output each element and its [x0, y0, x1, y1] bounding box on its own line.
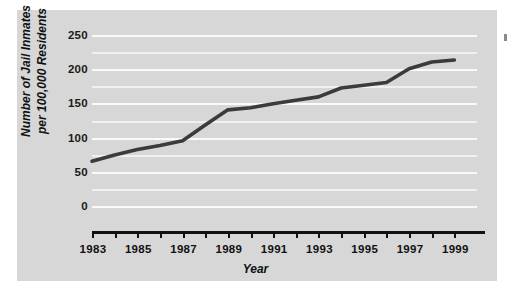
- x-tick-mark: [318, 231, 320, 238]
- data-series-line: [92, 36, 477, 207]
- x-axis-label: Year: [0, 262, 511, 276]
- x-tick-mark: [432, 231, 434, 238]
- plot-area: [92, 36, 477, 207]
- x-tick-mark: [183, 231, 185, 238]
- x-tick-label: 1985: [125, 243, 152, 255]
- x-tick-mark: [115, 231, 117, 238]
- y-axis-label-line2: per 100,000 Residents: [34, 8, 50, 134]
- y-axis-label-line1: Number of Jail Inmates: [18, 5, 34, 137]
- x-tick-label: 1997: [397, 243, 424, 255]
- chart-figure: 250200150100500 Number of Jail Inmates p…: [0, 0, 511, 292]
- y-tick-label: 50: [52, 167, 88, 179]
- x-tick-mark: [386, 231, 388, 238]
- y-tick-label: 0: [52, 201, 88, 213]
- x-tick-label: 1999: [442, 243, 469, 255]
- scan-artifact-mark: [504, 34, 507, 41]
- x-tick-mark: [137, 231, 139, 238]
- x-tick-mark: [251, 231, 253, 238]
- x-tick-label: 1987: [170, 243, 197, 255]
- x-tick-mark: [160, 231, 162, 238]
- x-tick-mark: [364, 231, 366, 238]
- x-tick-label: 1991: [261, 243, 288, 255]
- x-tick-mark: [296, 231, 298, 238]
- y-axis-label: Number of Jail Inmates per 100,000 Resid…: [17, 0, 51, 166]
- x-tick-mark: [341, 231, 343, 238]
- x-tick-mark: [205, 231, 207, 238]
- y-tick-label: 200: [52, 64, 88, 76]
- x-tick-mark: [454, 231, 456, 238]
- y-tick-label: 250: [52, 30, 88, 42]
- x-tick-label: 1993: [306, 243, 333, 255]
- x-tick-mark: [409, 231, 411, 238]
- x-tick-mark: [273, 231, 275, 238]
- y-tick-label: 150: [52, 99, 88, 111]
- x-tick-label: 1983: [80, 243, 107, 255]
- y-tick-label: 100: [52, 133, 88, 145]
- x-tick-label: 1989: [215, 243, 242, 255]
- x-tick-mark: [92, 231, 94, 238]
- x-tick-label: 1995: [351, 243, 378, 255]
- x-tick-mark: [228, 231, 230, 238]
- x-axis-line: [92, 231, 485, 234]
